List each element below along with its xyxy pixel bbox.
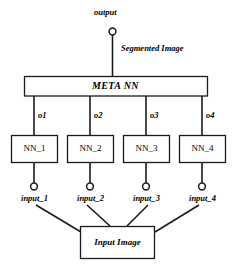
input-label-4: input_4 — [177, 194, 228, 203]
output-edge-label-o2: o2 — [94, 111, 103, 120]
nn-box-label-3: NN_3 — [123, 144, 170, 153]
diagram-canvas: output Segmented Image META NN o1 o2 o3 … — [0, 0, 233, 278]
nn-box-label-1: NN_1 — [11, 144, 58, 153]
input-image-label: Input Image — [80, 238, 155, 247]
output-edge-label-o1: o1 — [38, 111, 47, 120]
input-label-1: input_1 — [9, 194, 60, 203]
output-edge-label-o4: o4 — [206, 111, 215, 120]
output-edge-label-o3: o3 — [150, 111, 159, 120]
nn-box-label-4: NN_4 — [179, 144, 226, 153]
input-node-circle-2 — [87, 183, 94, 190]
edge-source-to-input-4 — [155, 205, 199, 232]
output-label: output — [94, 8, 117, 17]
edge-source-to-input-3 — [127, 205, 148, 226]
output-node-circle — [109, 28, 116, 35]
input-node-circle-4 — [199, 183, 206, 190]
segmented-image-edge-label: Segmented Image — [121, 44, 184, 53]
input-node-circle-3 — [143, 183, 150, 190]
input-node-circle-1 — [31, 183, 38, 190]
edge-source-to-input-1 — [36, 205, 81, 232]
nn-box-label-2: NN_2 — [67, 144, 114, 153]
meta-nn-label: META NN — [24, 81, 207, 91]
input-label-2: input_2 — [65, 194, 116, 203]
input-label-3: input_3 — [121, 194, 172, 203]
edge-source-to-input-2 — [87, 205, 110, 226]
